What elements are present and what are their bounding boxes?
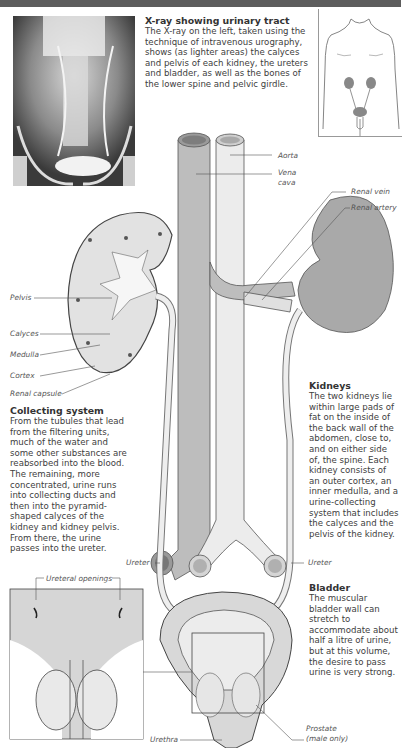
bladder-caption: Bladder The muscular bladder wall can st… [309,582,401,678]
bladder [160,592,292,748]
collecting-system-body: From the tubules that lead from the filt… [10,416,132,554]
label-medulla: Medulla [10,350,39,359]
label-renal-vein: Renal vein [351,187,390,196]
bladder-title: Bladder [309,582,401,593]
label-ureter-right: Ureter [308,558,331,567]
kidneys-caption: Kidneys The two kidneys lie within large… [309,380,399,539]
kidneys-body: The two kidneys lie within large pads of… [309,391,399,539]
kidney-cross-section [68,213,172,373]
label-vena-cava-1: Vena [278,168,296,177]
bladder-detail-inset [10,589,192,739]
label-prostate-1: Prostate [306,724,337,733]
label-ureteral-openings: Ureteral openings [46,574,112,583]
bladder-body: The muscular bladder wall can stretch to… [309,593,401,678]
label-calyces: Calyces [10,329,39,338]
label-prostate-2: (male only) [306,734,348,743]
label-renal-capsule: Renal capsule [10,389,62,398]
label-ureter-left: Ureter [126,558,149,567]
collecting-system-caption: Collecting system From the tubules that … [10,405,132,554]
label-renal-artery: Renal artery [351,203,397,212]
collecting-system-title: Collecting system [10,405,132,416]
label-urethra: Urethra [150,735,178,744]
kidney-right [298,196,393,332]
kidneys-title: Kidneys [309,380,399,391]
label-pelvis: Pelvis [10,293,31,302]
label-cortex: Cortex [10,371,35,380]
label-aorta: Aorta [278,151,298,160]
label-vena-cava-2: cava [278,178,296,187]
